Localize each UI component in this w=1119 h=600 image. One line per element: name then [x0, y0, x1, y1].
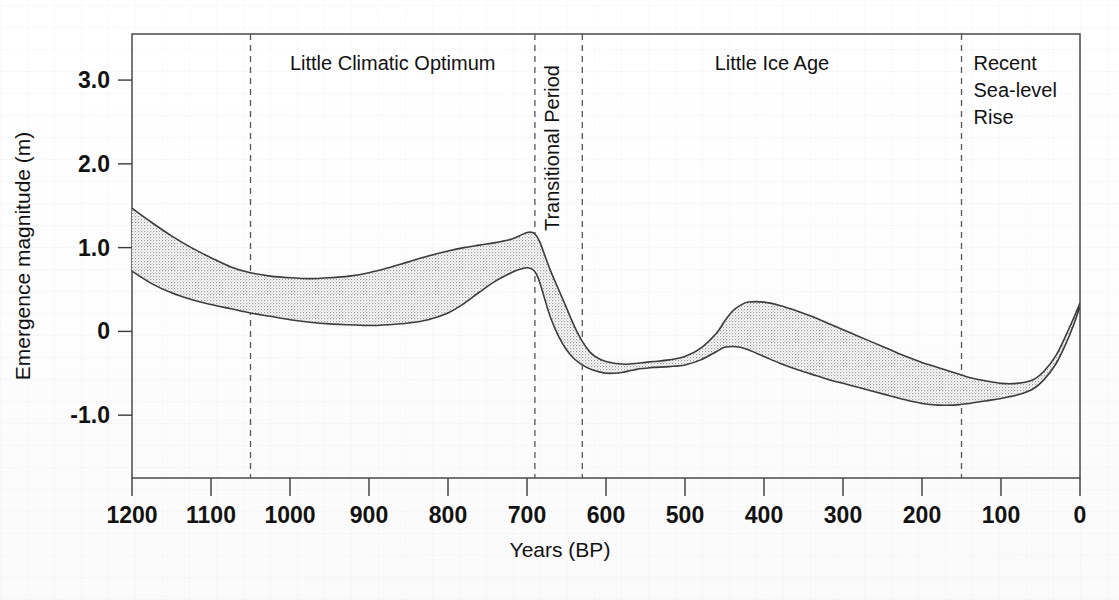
x-tick-label-1100: 1100 [186, 502, 236, 528]
x-tick-label-1000: 1000 [264, 502, 315, 528]
x-tick-label-0: 0 [1074, 502, 1087, 528]
x-tick-label-500: 500 [666, 502, 704, 528]
period-label-little-ice-age: Little Ice Age [715, 52, 830, 74]
x-tick-label-800: 800 [429, 502, 467, 528]
period-label-recent-sea-level-rise-line2: Sea-level [974, 79, 1057, 101]
period-label-recent-sea-level-rise-line3: Rise [974, 106, 1014, 128]
x-axis-title: Years (BP) [510, 538, 611, 561]
x-tick-label-900: 900 [350, 502, 388, 528]
x-tick-label-600: 600 [587, 502, 625, 528]
period-labels: Little Climatic OptimumTransitional Peri… [290, 52, 1057, 231]
y-tick-label-2.0: 2.0 [78, 151, 110, 177]
x-tick-label-400: 400 [745, 502, 783, 528]
y-tick-label-3.0: 3.0 [78, 67, 110, 93]
x-tick-label-700: 700 [508, 502, 546, 528]
plot-frame [132, 34, 1080, 478]
x-tick-label-300: 300 [824, 502, 862, 528]
x-tick-label-1200: 1200 [106, 502, 157, 528]
y-tick-label-1.0: 1.0 [78, 235, 110, 261]
period-dividers [251, 34, 962, 478]
chart-canvas: 3.02.01.00-1.0 1200110010009008007006005… [0, 0, 1119, 600]
period-label-little-climatic-optimum: Little Climatic Optimum [290, 52, 496, 74]
x-tick-label-200: 200 [903, 502, 941, 528]
x-axis: 1200110010009008007006005004003002001000 [106, 478, 1086, 528]
y-tick-label--1.0: -1.0 [70, 402, 110, 428]
uncertainty-band-fill [132, 208, 1080, 405]
y-tick-label-0: 0 [97, 318, 110, 344]
y-axis: 3.02.01.00-1.0 [70, 67, 132, 428]
y-axis-title: Emergence magnitude (m) [11, 132, 34, 381]
emergence-magnitude-chart: 3.02.01.00-1.0 1200110010009008007006005… [0, 0, 1119, 600]
x-tick-label-100: 100 [982, 502, 1020, 528]
uncertainty-band-group [132, 208, 1080, 405]
period-label-transitional-period: Transitional Period [541, 65, 563, 231]
period-label-recent-sea-level-rise-line1: Recent [974, 52, 1038, 74]
